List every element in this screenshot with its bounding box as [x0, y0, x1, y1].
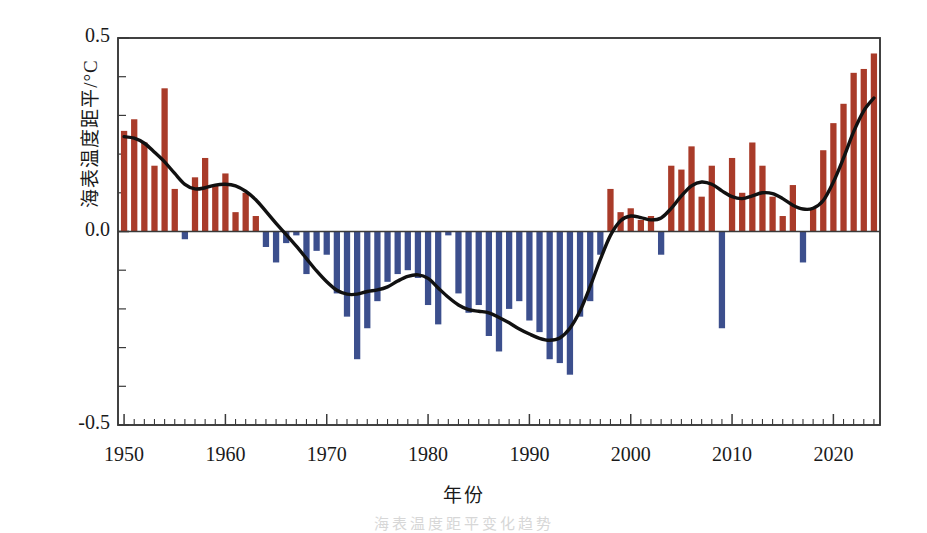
- data-bar: [668, 166, 674, 232]
- data-bar: [476, 232, 482, 306]
- data-bar: [253, 216, 259, 231]
- data-bar: [780, 216, 786, 231]
- data-bar: [273, 232, 279, 263]
- data-bar: [212, 185, 218, 231]
- data-bar: [324, 232, 330, 255]
- data-bar: [871, 53, 877, 231]
- plot-canvas: [0, 0, 927, 533]
- data-bar: [384, 232, 390, 282]
- data-bar: [790, 185, 796, 231]
- data-bar: [263, 232, 269, 247]
- data-bar: [121, 131, 127, 232]
- sst-anomaly-chart: 海表温度距平/°C 年份 0.50.0-0.5 1950196019701980…: [0, 0, 927, 533]
- data-bar: [759, 166, 765, 232]
- data-bar: [506, 232, 512, 309]
- data-bar: [303, 232, 309, 275]
- data-bar: [313, 232, 319, 251]
- data-bar: [202, 158, 208, 232]
- data-bar: [800, 232, 806, 263]
- data-bar: [486, 232, 492, 336]
- data-bar: [557, 232, 563, 364]
- data-bar: [435, 232, 441, 325]
- data-bar: [334, 232, 340, 294]
- data-bar: [465, 232, 471, 313]
- data-bar: [222, 173, 228, 231]
- figure-caption-ghost: 海表温度距平变化趋势: [0, 512, 927, 533]
- data-bar: [769, 197, 775, 232]
- data-bar: [699, 197, 705, 232]
- data-bar: [709, 166, 715, 232]
- data-bar: [496, 232, 502, 352]
- data-bar: [567, 232, 573, 375]
- data-bar: [151, 166, 157, 232]
- data-bar: [182, 232, 188, 240]
- data-bar: [749, 142, 755, 231]
- data-bar: [415, 232, 421, 278]
- data-bar: [658, 232, 664, 255]
- data-bar: [172, 189, 178, 232]
- data-bar: [232, 212, 238, 231]
- data-bar: [607, 189, 613, 232]
- data-bar: [628, 208, 634, 231]
- data-bar: [425, 232, 431, 306]
- data-bar: [638, 220, 644, 232]
- data-bar: [344, 232, 350, 317]
- data-bar: [719, 232, 725, 329]
- data-bar: [243, 193, 249, 232]
- data-bar: [395, 232, 401, 275]
- data-bar: [455, 232, 461, 294]
- data-bar: [851, 73, 857, 232]
- data-bar: [526, 232, 532, 321]
- data-bar: [192, 177, 198, 231]
- data-bar: [405, 232, 411, 271]
- data-bar: [364, 232, 370, 329]
- data-bar: [810, 208, 816, 231]
- data-bar: [820, 150, 826, 231]
- data-bar: [141, 142, 147, 231]
- data-bar: [861, 69, 867, 232]
- data-bar: [536, 232, 542, 333]
- data-bar: [516, 232, 522, 302]
